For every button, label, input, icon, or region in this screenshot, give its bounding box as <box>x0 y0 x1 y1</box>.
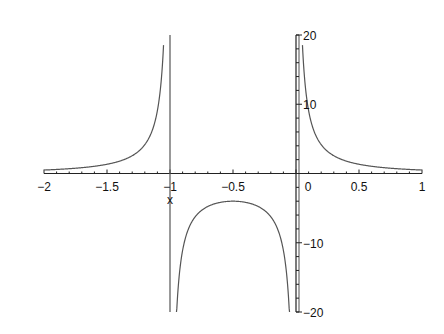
middle-branch-curve <box>176 201 289 312</box>
axes <box>44 35 422 312</box>
x-tick-label: −1 <box>163 180 177 194</box>
x-tick-label: 0 <box>305 180 312 194</box>
tick-labels: −2−1.5−1−0.500.51x−20−101020 <box>37 29 426 320</box>
x-tick-label: 0.5 <box>351 180 368 194</box>
y-tick-label: 20 <box>303 29 317 43</box>
y-tick-label: 10 <box>303 98 317 112</box>
x-tick-label: −1.5 <box>95 180 119 194</box>
x-tick-label: −2 <box>37 180 51 194</box>
x-tick-label: 1 <box>419 180 426 194</box>
x-axis-name: x <box>167 193 173 207</box>
x-tick-label: −0.5 <box>221 180 245 194</box>
left-branch-curve <box>44 45 164 170</box>
function-plot: −2−1.5−1−0.500.51x−20−101020 <box>0 0 444 334</box>
y-tick-label: −20 <box>303 306 324 320</box>
right-branch-curve <box>302 45 422 170</box>
y-tick-label: −10 <box>303 237 324 251</box>
